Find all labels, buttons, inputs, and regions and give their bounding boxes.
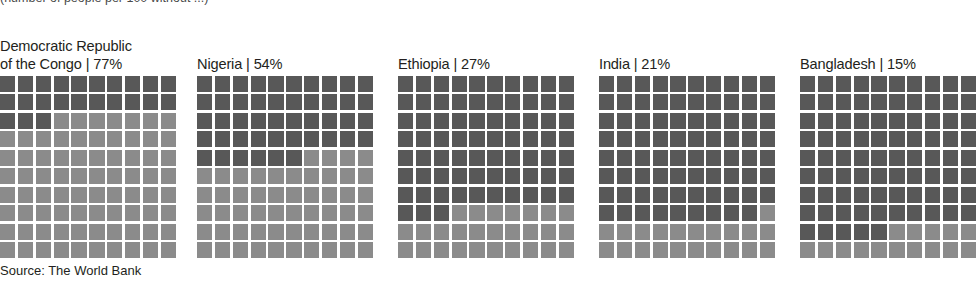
waffle-cell-light bbox=[304, 168, 319, 184]
waffle-cell-dark bbox=[724, 150, 739, 166]
waffle-cell-dark bbox=[233, 76, 248, 92]
waffle-cell-light bbox=[469, 242, 484, 258]
waffle-cell-dark bbox=[617, 113, 632, 129]
waffle-cell-light bbox=[89, 187, 104, 203]
waffle-cell-dark bbox=[742, 150, 757, 166]
waffle-cell-dark bbox=[854, 224, 869, 240]
waffle-cell-dark bbox=[286, 113, 301, 129]
waffle-cell-dark bbox=[706, 187, 721, 203]
waffle-cell-dark bbox=[836, 113, 851, 129]
waffle-cell-light bbox=[125, 150, 140, 166]
waffle-cell-light bbox=[889, 224, 904, 240]
waffle-cell-dark bbox=[653, 113, 668, 129]
waffle-cell-light bbox=[251, 224, 266, 240]
waffle-cell-dark bbox=[889, 131, 904, 147]
waffle-cell-dark bbox=[559, 131, 574, 147]
waffle-cell-dark bbox=[416, 131, 431, 147]
waffle-cell-dark bbox=[523, 76, 538, 92]
waffle-cell-dark bbox=[398, 94, 413, 110]
waffle-cell-light bbox=[505, 242, 520, 258]
waffle-cell-dark bbox=[541, 168, 556, 184]
waffle-cell-dark bbox=[670, 168, 685, 184]
waffle-cell-dark bbox=[688, 94, 703, 110]
waffle-cell-light bbox=[233, 242, 248, 258]
waffle-grid-bangladesh bbox=[800, 76, 976, 258]
waffle-cell-dark bbox=[871, 224, 886, 240]
waffle-cell-dark bbox=[452, 168, 467, 184]
waffle-cell-light bbox=[18, 187, 33, 203]
waffle-cell-dark bbox=[635, 150, 650, 166]
waffle-cell-dark bbox=[434, 168, 449, 184]
waffle-cell-light bbox=[125, 168, 140, 184]
waffle-cell-dark bbox=[800, 131, 815, 147]
waffle-cell-light bbox=[742, 224, 757, 240]
waffle-cell-light bbox=[286, 168, 301, 184]
waffle-cell-light bbox=[143, 242, 158, 258]
waffle-cell-dark bbox=[742, 94, 757, 110]
waffle-cell-light bbox=[469, 224, 484, 240]
waffle-cell-light bbox=[688, 242, 703, 258]
waffle-cell-light bbox=[358, 150, 373, 166]
waffle-cell-dark bbox=[434, 205, 449, 221]
waffle-cell-light bbox=[215, 205, 230, 221]
waffle-cell-light bbox=[304, 150, 319, 166]
waffle-cell-dark bbox=[434, 94, 449, 110]
waffle-cell-light bbox=[18, 242, 33, 258]
waffle-cell-dark bbox=[197, 150, 212, 166]
waffle-cell-light bbox=[340, 187, 355, 203]
waffle-cell-dark bbox=[760, 76, 775, 92]
waffle-cell-dark bbox=[469, 168, 484, 184]
waffle-cell-dark bbox=[724, 76, 739, 92]
waffle-cell-dark bbox=[836, 187, 851, 203]
waffle-cell-dark bbox=[0, 94, 15, 110]
waffle-cell-dark bbox=[742, 76, 757, 92]
waffle-cell-dark bbox=[251, 76, 266, 92]
waffle-cell-dark bbox=[599, 76, 614, 92]
waffle-cell-dark bbox=[251, 94, 266, 110]
waffle-cell-dark bbox=[836, 131, 851, 147]
waffle-cell-light bbox=[36, 187, 51, 203]
waffle-cell-light bbox=[71, 131, 86, 147]
waffle-cell-dark bbox=[523, 94, 538, 110]
waffle-cell-light bbox=[943, 224, 958, 240]
panel-label-ethiopia: Ethiopia | 27% bbox=[398, 56, 584, 74]
waffle-cell-dark bbox=[854, 187, 869, 203]
waffle-cell-dark bbox=[706, 205, 721, 221]
waffle-cell-dark bbox=[907, 150, 922, 166]
waffle-cell-dark bbox=[434, 76, 449, 92]
waffle-cell-dark bbox=[215, 76, 230, 92]
waffle-cell-light bbox=[125, 187, 140, 203]
waffle-cell-light bbox=[599, 224, 614, 240]
waffle-cell-dark bbox=[541, 94, 556, 110]
waffle-cell-dark bbox=[760, 168, 775, 184]
waffle-cell-dark bbox=[304, 113, 319, 129]
waffle-cell-light bbox=[653, 224, 668, 240]
waffle-cell-dark bbox=[706, 76, 721, 92]
waffle-cell-light bbox=[724, 224, 739, 240]
waffle-cell-light bbox=[416, 224, 431, 240]
waffle-cell-dark bbox=[505, 94, 520, 110]
waffle-cell-dark bbox=[961, 131, 976, 147]
waffle-cell-dark bbox=[889, 150, 904, 166]
waffle-cell-light bbox=[215, 242, 230, 258]
waffle-cell-dark bbox=[653, 94, 668, 110]
waffle-cell-dark bbox=[961, 168, 976, 184]
waffle-cell-dark bbox=[18, 94, 33, 110]
waffle-cell-dark bbox=[635, 187, 650, 203]
waffle-cell-dark bbox=[541, 76, 556, 92]
waffle-cell-light bbox=[268, 242, 283, 258]
waffle-cell-light bbox=[617, 242, 632, 258]
source-note: Source: The World Bank bbox=[0, 262, 141, 279]
waffle-cell-light bbox=[143, 224, 158, 240]
waffle-cell-light bbox=[760, 205, 775, 221]
waffle-cell-light bbox=[724, 242, 739, 258]
waffle-cell-dark bbox=[107, 76, 122, 92]
waffle-cell-dark bbox=[36, 76, 51, 92]
waffle-cell-light bbox=[358, 168, 373, 184]
waffle-cell-light bbox=[107, 187, 122, 203]
waffle-cell-dark bbox=[89, 94, 104, 110]
waffle-cell-dark bbox=[599, 168, 614, 184]
waffle-cell-dark bbox=[197, 76, 212, 92]
waffle-cell-dark bbox=[251, 150, 266, 166]
waffle-cell-dark bbox=[197, 113, 212, 129]
